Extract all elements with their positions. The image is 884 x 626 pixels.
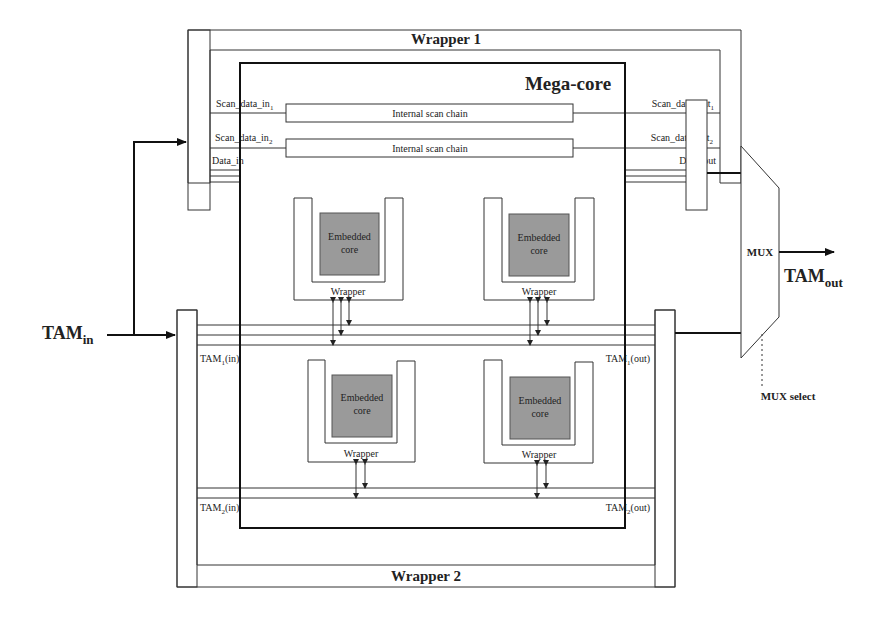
embedded-core-4-wrapper-label: Wrapper — [522, 449, 557, 460]
embedded-core-3-label-2: core — [353, 405, 371, 416]
embedded-core-3: Embedded core Wrapper — [308, 360, 415, 498]
scan-chain-2: Internal scan chain Scan_data_in2 Scan_d… — [210, 132, 720, 157]
scan-chain-2-label: Internal scan chain — [392, 143, 468, 154]
tam-out-routing: TAMout — [779, 252, 843, 290]
megacore-test-architecture-diagram: Wrapper 1 Wrapper 2 Mega-core Internal s… — [0, 0, 884, 626]
embedded-core-4-label: Embedded — [519, 395, 562, 406]
wrapper-1-input-port — [188, 30, 210, 210]
scan-chain-1: Internal scan chain Scan_data_in1 Scan_d… — [210, 98, 720, 122]
tam1-bus: TAM1(in) TAM1(out) — [197, 325, 655, 367]
tam2-bus: TAM2(in) TAM2(out) — [197, 488, 655, 516]
tam2-out-label: TAM2(out) — [606, 502, 650, 516]
data-in-label: Data_in — [212, 155, 244, 166]
scan-data-in-2-label: Scan_data_in2 — [215, 132, 273, 146]
scan-chain-1-label: Internal scan chain — [392, 108, 468, 119]
embedded-core-1: Embedded core Wrapper — [294, 198, 403, 345]
wrapper-2-label: Wrapper 2 — [391, 568, 461, 584]
embedded-core-2-label: Embedded — [518, 232, 561, 243]
embedded-core-3-label: Embedded — [341, 392, 384, 403]
embedded-core-4: Embedded core Wrapper — [484, 360, 593, 498]
wrapper-2-output-port — [655, 310, 675, 587]
mux-label: MUX — [747, 246, 773, 258]
embedded-core-2-wrapper-label: Wrapper — [522, 286, 557, 297]
wrapper-1-label: Wrapper 1 — [411, 31, 481, 47]
mux-select-label: MUX select — [761, 390, 816, 402]
wrapper-2-input-port — [177, 310, 197, 587]
embedded-core-1-wrapper-label: Wrapper — [331, 286, 366, 297]
embedded-core-1-label: Embedded — [328, 231, 371, 242]
wrapper-1-output-port — [686, 100, 707, 210]
tam-in-label: TAMin — [42, 323, 94, 347]
embedded-core-2-label-2: core — [530, 245, 548, 256]
tam-in-routing: TAMin — [42, 142, 186, 347]
embedded-core-2: Embedded core Wrapper — [484, 198, 594, 345]
tam1-out-label: TAM1(out) — [606, 353, 650, 367]
tam-out-label: TAMout — [784, 266, 843, 290]
embedded-core-3-wrapper-label: Wrapper — [344, 448, 379, 459]
embedded-core-1-label-2: core — [341, 244, 359, 255]
tam2-in-label: TAM2(in) — [200, 502, 239, 516]
data-in-bus: Data_in — [210, 155, 244, 182]
embedded-core-4-label-2: core — [531, 408, 549, 419]
scan-data-in-1-label: Scan_data_in1 — [216, 98, 274, 112]
wrapper-2: Wrapper 2 — [177, 310, 675, 587]
tam1-in-label: TAM1(in) — [200, 353, 239, 367]
megacore-label: Mega-core — [525, 73, 611, 94]
